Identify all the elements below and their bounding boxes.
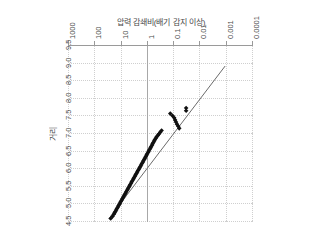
value-axis-tick (147, 41, 148, 46)
value-axis-tick (94, 41, 95, 46)
category-axis-tick-label: 9.5 (65, 40, 73, 50)
data-point (184, 108, 189, 113)
x-axis-title: 거리 (47, 127, 58, 141)
category-axis-tick-label: 4.5 (65, 216, 73, 226)
category-axis-tick-label: 7.5 (65, 110, 73, 120)
chart-figure: 거리 압력 감쇄비(배기 감지 이상) 0.00010.0010.010.111… (0, 0, 322, 245)
category-axis-tick-label: 6.5 (65, 145, 73, 155)
data-point-group (108, 106, 188, 221)
value-axis-tick-label: 1000 (69, 22, 77, 39)
value-axis-tick (252, 41, 253, 46)
category-axis-tick-label: 8.0 (65, 92, 73, 102)
category-axis-tick-label: 7.0 (65, 128, 73, 138)
value-axis-tick (199, 41, 200, 46)
value-axis-tick (121, 41, 122, 46)
value-axis-tick-label: 0.1 (174, 29, 182, 39)
series-layer (0, 0, 322, 245)
trend-line (109, 66, 225, 218)
value-axis-tick-label: 0.01 (200, 24, 208, 39)
category-axis-tick-label: 8.5 (65, 75, 73, 85)
value-axis-tick-label: 10 (122, 31, 130, 39)
value-axis-tick-label: 0.0001 (253, 16, 261, 39)
category-axis-tick-label: 5.0 (65, 198, 73, 208)
value-axis-tick-label: 100 (95, 26, 103, 39)
category-axis-tick-label: 5.5 (65, 180, 73, 190)
category-axis-tick-label: 6.0 (65, 163, 73, 173)
value-axis-tick (226, 41, 227, 46)
value-axis-tick (173, 41, 174, 46)
category-axis-tick-label: 9.0 (65, 57, 73, 67)
chart-rotator: 거리 압력 감쇄비(배기 감지 이상) 0.00010.0010.010.111… (0, 0, 322, 245)
value-axis-tick-label: 1 (148, 35, 156, 39)
value-axis-tick-label: 0.001 (227, 20, 235, 39)
y-axis-title: 압력 감쇄비(배기 감지 이상) (117, 16, 206, 27)
